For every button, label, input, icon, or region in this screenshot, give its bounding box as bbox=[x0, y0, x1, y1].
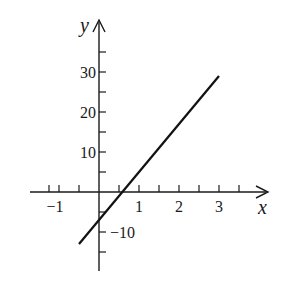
y-tick-label: 10 bbox=[80, 144, 96, 161]
x-tick-label: −1 bbox=[46, 198, 63, 215]
y-tick-label: −10 bbox=[110, 224, 135, 241]
x-tick-label: 1 bbox=[135, 198, 143, 215]
x-axis-label: x bbox=[257, 196, 267, 218]
series-line bbox=[79, 76, 219, 244]
y-tick-label: 20 bbox=[80, 104, 96, 121]
y-tick-label: 30 bbox=[80, 64, 96, 81]
chart: −1123302010−10 y x bbox=[0, 0, 292, 282]
x-tick-label: 3 bbox=[215, 198, 223, 215]
y-axis-label: y bbox=[78, 14, 89, 37]
x-tick-label: 2 bbox=[175, 198, 183, 215]
plot-area: −1123302010−10 bbox=[30, 20, 268, 271]
